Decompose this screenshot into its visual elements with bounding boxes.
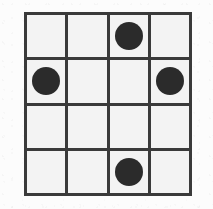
- circle-token-r2-c4[interactable]: [156, 67, 184, 95]
- grid-diagram-scene: [0, 0, 213, 209]
- grid-cell-r3-c1[interactable]: [27, 106, 65, 148]
- grid-cell-r1-c3[interactable]: [110, 15, 148, 57]
- grid-cell-r2-c1[interactable]: [27, 60, 65, 102]
- grid-cell-r4-c1[interactable]: [27, 151, 65, 193]
- circle-token-r2-c1[interactable]: [32, 67, 60, 95]
- grid-board: [24, 12, 192, 196]
- grid-cell-r4-c2[interactable]: [68, 151, 106, 193]
- grid-cell-r4-c3[interactable]: [110, 151, 148, 193]
- grid-cell-r3-c2[interactable]: [68, 106, 106, 148]
- grid-cell-r2-c2[interactable]: [68, 60, 106, 102]
- grid-cell-r1-c1[interactable]: [27, 15, 65, 57]
- circle-token-r1-c3[interactable]: [115, 22, 143, 50]
- grid-cell-r1-c4[interactable]: [151, 15, 189, 57]
- grid-cell-r1-c2[interactable]: [68, 15, 106, 57]
- grid-cell-r2-c3[interactable]: [110, 60, 148, 102]
- circle-token-r4-c3[interactable]: [115, 158, 143, 186]
- grid-cell-r3-c3[interactable]: [110, 106, 148, 148]
- grid-cell-r4-c4[interactable]: [151, 151, 189, 193]
- grid-cell-r3-c4[interactable]: [151, 106, 189, 148]
- grid-cell-r2-c4[interactable]: [151, 60, 189, 102]
